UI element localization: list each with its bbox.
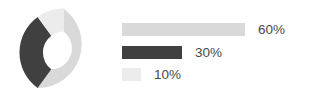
legend-item-10[interactable]: 10% (122, 66, 181, 82)
legend-item-60[interactable]: 60% (122, 21, 285, 37)
legend-label-60: 60% (258, 22, 285, 37)
legend-item-30[interactable]: 30% (122, 44, 222, 60)
donut-chart-figure: 60% 30% 10% (0, 0, 309, 99)
donut-chart (19, 8, 108, 97)
legend-swatch-bar-60 (122, 23, 245, 36)
legend-label-10: 10% (154, 67, 181, 82)
legend-label-30: 30% (195, 45, 222, 60)
chart-legend: 60% 30% 10% (122, 14, 302, 86)
legend-swatch-bar-10 (122, 68, 141, 81)
legend-swatch-bar-30 (122, 46, 182, 59)
donut-chart-svg (19, 8, 108, 97)
